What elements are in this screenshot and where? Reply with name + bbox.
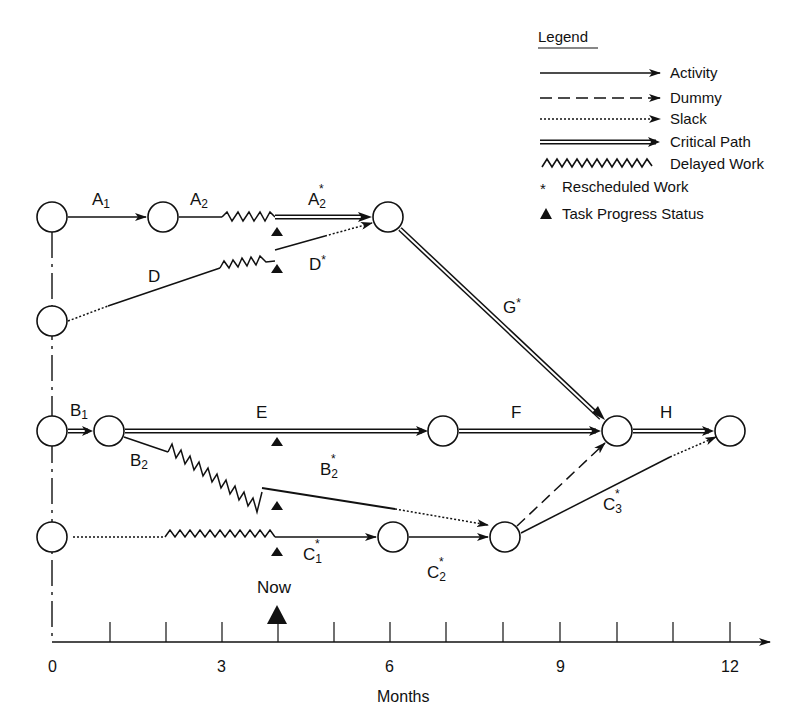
triangle-icon (271, 547, 283, 556)
svg-text:Rescheduled Work: Rescheduled Work (562, 178, 689, 195)
label-b2-star: B2* (320, 452, 338, 481)
svg-text:Dummy: Dummy (670, 89, 722, 106)
tick-label-12: 12 (721, 658, 739, 675)
label-h: H (660, 403, 672, 422)
tick-label-0: 0 (48, 658, 57, 675)
node-c1-end (378, 522, 408, 552)
node-e-end (428, 416, 458, 446)
activity-c3-star (670, 437, 716, 457)
legend-title: Legend (538, 28, 588, 45)
asterisk-icon: * (540, 180, 546, 197)
network-diagram: Legend Activity Dummy Slack Critical Pat… (0, 0, 809, 727)
node-merge (602, 416, 632, 446)
svg-text:Slack: Slack (670, 110, 707, 127)
node-finish (715, 416, 745, 446)
legend-progress: Task Progress Status (540, 205, 704, 222)
legend: Legend Activity Dummy Slack Critical Pat… (538, 28, 764, 222)
node-a2-d-end (373, 202, 403, 232)
now-label: Now (257, 578, 292, 597)
triangle-icon (271, 227, 283, 236)
label-d: D (148, 267, 160, 286)
label-c2-star: C2* (427, 555, 446, 584)
activity-labels: A1 A2 A2* D D* G* B1 E F H B2 B2* C1* C2… (70, 182, 672, 584)
node-c2-end (490, 522, 520, 552)
nodes (37, 202, 745, 552)
label-a2-star: A2* (308, 182, 326, 211)
delayed-a2 (222, 212, 275, 221)
label-c3-star: C3* (603, 487, 622, 516)
label-b1: B1 (70, 401, 88, 422)
legend-slack: Slack (540, 110, 707, 127)
slack-b2-star (395, 509, 488, 525)
triangle-icon (271, 264, 283, 273)
label-g-star: G* (503, 296, 521, 317)
tick-label-9: 9 (556, 658, 565, 675)
svg-text:Activity: Activity (670, 64, 718, 81)
tick-label-3: 3 (217, 658, 226, 675)
node-start-d (37, 306, 67, 336)
legend-critical-path: Critical Path (540, 133, 751, 150)
triangle-icon (540, 208, 552, 219)
label-f: F (511, 403, 521, 422)
label-b2: B2 (130, 451, 148, 472)
node-start-a (37, 202, 67, 232)
axis-label: Months (377, 688, 429, 705)
node-start-c (37, 522, 67, 552)
node-start-b (37, 416, 67, 446)
slack-d-star (325, 223, 372, 236)
label-d-star: D* (309, 253, 326, 274)
triangle-icon (271, 437, 283, 446)
tick-label-6: 6 (385, 658, 394, 675)
svg-text:Delayed Work: Delayed Work (670, 155, 764, 172)
delayed-b2 (168, 444, 262, 512)
triangle-icon (271, 501, 283, 510)
label-e: E (256, 403, 267, 422)
delayed-d (220, 256, 275, 268)
legend-delayed-work: Delayed Work (542, 155, 764, 172)
label-a2: A2 (190, 190, 208, 211)
label-a1: A1 (92, 190, 110, 211)
label-c1-star: C1* (303, 537, 322, 566)
svg-text:Task Progress Status: Task Progress Status (562, 205, 704, 222)
legend-activity: Activity (540, 64, 718, 81)
now-triangle-icon (267, 605, 287, 624)
node-b1-end (94, 416, 124, 446)
legend-dummy: Dummy (540, 89, 722, 106)
legend-rescheduled: * Rescheduled Work (540, 178, 689, 197)
delayed-c1 (165, 530, 275, 537)
dummy-link (517, 443, 605, 526)
progress-markers (271, 227, 283, 556)
zigzag-icon (542, 159, 652, 167)
time-axis: 0 3 6 9 12 Months (48, 622, 770, 705)
node-a1-end (148, 202, 178, 232)
svg-text:Critical Path: Critical Path (670, 133, 751, 150)
